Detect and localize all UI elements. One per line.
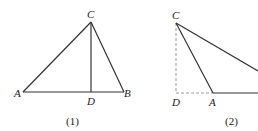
caption-2: (2) [225, 115, 238, 128]
segment-CB [91, 22, 124, 92]
label-A: A [13, 87, 21, 99]
label-B: B [124, 87, 131, 99]
segment-AC [23, 22, 91, 92]
label-C: C [87, 8, 95, 20]
geometry-diagram: C A D B (1) C D A (2) [0, 0, 258, 131]
label-D: D [86, 95, 95, 107]
label-A: A [208, 96, 216, 108]
caption-1: (1) [66, 115, 79, 128]
label-C: C [172, 9, 180, 21]
figure-2: C D A (2) [171, 9, 258, 128]
label-D: D [171, 96, 180, 108]
figure-1: C A D B (1) [13, 8, 131, 128]
